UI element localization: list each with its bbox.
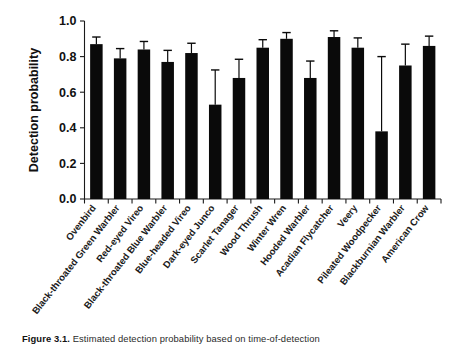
bar: [161, 62, 174, 199]
bar: [209, 105, 222, 199]
y-tick-label: 0.2: [59, 157, 76, 171]
error-bar: [330, 31, 338, 37]
y-axis-title-text: Detection probability: [27, 48, 41, 172]
y-tick-label: 0.0: [59, 192, 76, 206]
error-bar: [259, 40, 267, 48]
bar: [280, 39, 293, 199]
y-tick-label: 0.6: [59, 86, 76, 100]
error-bar: [401, 44, 409, 65]
figure-root: 0.00.20.40.60.81.0 OvenbirdBlack-throate…: [0, 0, 452, 352]
y-axis-title: Detection probability: [27, 48, 41, 172]
bar: [114, 58, 127, 199]
y-tick-label: 0.4: [59, 121, 76, 135]
error-bar: [116, 49, 124, 59]
error-bar: [92, 37, 100, 44]
bar: [138, 49, 151, 199]
error-bar: [163, 50, 171, 62]
bar: [423, 46, 436, 199]
bar: [185, 53, 198, 199]
error-bar: [306, 61, 314, 78]
bar: [90, 44, 103, 199]
error-bar: [425, 36, 433, 46]
detection-probability-bar-chart: 0.00.20.40.60.81.0 OvenbirdBlack-throate…: [0, 0, 452, 315]
bar: [328, 37, 341, 199]
error-bar: [211, 70, 219, 105]
figure-caption: Figure 3.1. Estimated detection probabil…: [22, 333, 434, 345]
x-category-labels: OvenbirdBlack-throated Green WarblerRed-…: [30, 202, 431, 315]
error-bar: [377, 57, 385, 132]
error-bar: [235, 59, 243, 78]
bar: [304, 78, 317, 199]
error-bar: [354, 38, 362, 48]
bar: [257, 48, 270, 199]
bar: [233, 78, 246, 199]
error-bar: [140, 41, 148, 49]
figure-caption-label: Figure 3.1.: [22, 333, 70, 344]
bar: [352, 48, 365, 199]
chart-plot-area: 0.00.20.40.60.81.0 OvenbirdBlack-throate…: [0, 0, 452, 315]
y-tick-label: 0.8: [59, 50, 76, 64]
x-axis: [85, 199, 442, 204]
y-axis: [80, 21, 85, 199]
error-bar: [187, 43, 195, 53]
error-bar: [282, 33, 290, 39]
bar: [399, 66, 412, 200]
figure-caption-text: Estimated detection probability based on…: [73, 333, 320, 344]
bar-series: [90, 37, 435, 199]
y-tick-labels: 0.00.20.40.60.81.0: [59, 14, 76, 206]
y-tick-label: 1.0: [59, 14, 76, 28]
bar: [375, 131, 388, 199]
